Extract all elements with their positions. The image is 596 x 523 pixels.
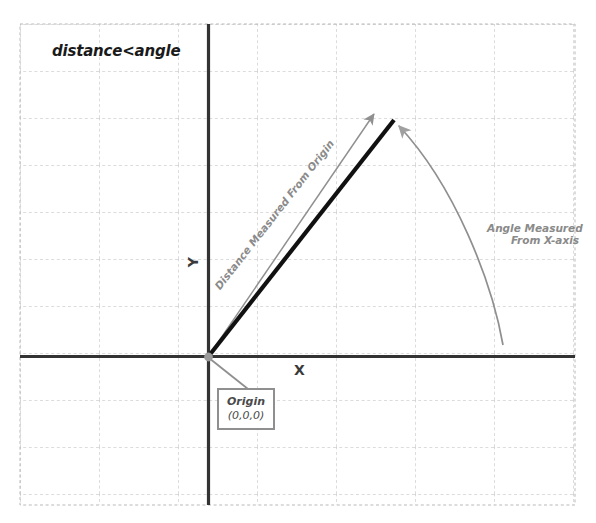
angle-annotation-line-2: From X-axis (511, 234, 579, 246)
origin-callout-title: Origin (227, 395, 265, 409)
origin-callout-coords: (0,0,0) (228, 409, 265, 423)
origin-dot (204, 353, 213, 362)
x-axis-label: X (294, 362, 305, 379)
grid-background (20, 24, 575, 505)
angle-annotation-line-1: Angle Measured (487, 222, 583, 234)
origin-callout-box: Origin (0,0,0) (217, 388, 275, 430)
y-axis-label: Y (185, 257, 202, 267)
diagram-graphics (0, 0, 596, 523)
diagram-canvas: distance<angle X Y Distance Measured Fro… (0, 0, 596, 523)
diagram-title: distance<angle (52, 43, 180, 61)
angle-annotation-label: Angle MeasuredFrom X-axis (487, 222, 579, 247)
